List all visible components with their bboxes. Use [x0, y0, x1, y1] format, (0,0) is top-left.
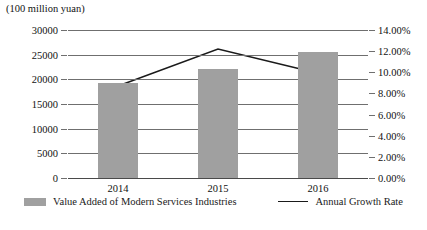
chart-container: (100 million yuan) 050001000015000200002…: [0, 0, 427, 230]
y-axis-left-tick-mark: [61, 55, 67, 56]
gridline: [68, 30, 368, 31]
y-axis-right-tick-mark: [369, 30, 375, 31]
line-swatch-icon: [278, 201, 308, 202]
y-axis-left-tick-mark: [61, 30, 67, 31]
y-axis-right-tick-label: 12.00%: [378, 46, 410, 57]
y-axis-right-tick-mark: [369, 157, 375, 158]
bar[interactable]: [98, 83, 138, 178]
y-axis-right-tick-label: 10.00%: [378, 67, 410, 78]
chart-legend: Value Added of Modern Services Industrie…: [0, 196, 427, 207]
gridline: [68, 178, 368, 179]
y-axis-left-tick-mark: [61, 178, 67, 179]
bar[interactable]: [298, 52, 338, 178]
x-axis-tick-label: 2015: [208, 183, 229, 194]
y-axis-left-tick-label: 5000: [37, 148, 58, 159]
y-axis-right-tick-label: 0.00%: [378, 173, 405, 184]
y-axis-left-tick-label: 20000: [32, 74, 58, 85]
x-axis-tick-label: 2014: [108, 183, 129, 194]
y-axis-right-tick-label: 2.00%: [378, 151, 405, 162]
y-axis-left-tick-mark: [61, 79, 67, 80]
y-axis-right-tick-label: 14.00%: [378, 25, 410, 36]
y-axis-right-tick-label: 6.00%: [378, 109, 405, 120]
y-axis-right-tick-label: 8.00%: [378, 88, 405, 99]
y-axis-right-tick-mark: [369, 136, 375, 137]
y-axis-right-tick-mark: [369, 178, 375, 179]
y-axis-left-tick-label: 15000: [32, 99, 58, 110]
y-axis-left-tick-label: 10000: [32, 123, 58, 134]
y-axis-right-tick-mark: [369, 51, 375, 52]
legend-label-value-added: Value Added of Modern Services Industrie…: [53, 196, 236, 207]
y-axis-unit-caption: (100 million yuan): [6, 3, 85, 15]
legend-item-growth-rate[interactable]: Annual Growth Rate: [278, 196, 402, 207]
legend-label-growth-rate: Annual Growth Rate: [315, 196, 402, 207]
y-axis-left-tick-label: 0: [53, 173, 58, 184]
plot-area: 0500010000150002000025000300000.00%2.00%…: [68, 30, 368, 178]
y-axis-left-tick-mark: [61, 153, 67, 154]
y-axis-right-tick-mark: [369, 115, 375, 116]
y-axis-left-tick-mark: [61, 129, 67, 130]
y-axis-right-tick-mark: [369, 93, 375, 94]
legend-item-value-added[interactable]: Value Added of Modern Services Industrie…: [24, 196, 236, 207]
y-axis-right-tick-label: 4.00%: [378, 130, 405, 141]
bar-swatch-icon: [24, 198, 46, 206]
bar[interactable]: [198, 69, 238, 178]
y-axis-left-tick-label: 25000: [32, 49, 58, 60]
y-axis-right-tick-mark: [369, 72, 375, 73]
y-axis-left-tick-label: 30000: [32, 25, 58, 36]
y-axis-left-tick-mark: [61, 104, 67, 105]
x-axis-tick-label: 2016: [308, 183, 329, 194]
